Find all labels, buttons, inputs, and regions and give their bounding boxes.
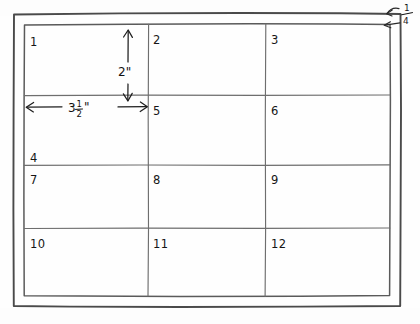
horizontal-dimension-unit: " — [84, 100, 90, 114]
vertical-grid-line-1 — [148, 24, 149, 296]
cell-label-8: 8 — [153, 173, 161, 187]
sketch-canvas: 1 4 2" 3 1 2 " 1 2 3 5 6 7 8 9 10 11 12 — [0, 0, 420, 324]
horizontal-grid-line-1 — [24, 95, 390, 96]
cell-label-2: 2 — [153, 33, 161, 47]
horizontal-dimension-numerator: 1 — [77, 99, 82, 109]
hand-drawn-grid-diagram: 1 4 2" 3 1 2 " 1 2 3 5 6 7 8 9 10 11 12 — [0, 0, 420, 324]
paper-background — [0, 0, 420, 324]
horizontal-grid-line-2 — [24, 165, 390, 166]
cell-label-6: 6 — [271, 104, 279, 118]
horizontal-grid-line-3 — [24, 228, 389, 229]
cell-label-10: 10 — [30, 237, 45, 251]
vertical-grid-line-2 — [265, 24, 266, 296]
cell-label-12: 12 — [271, 237, 286, 251]
cell-label-5: 5 — [153, 104, 161, 118]
corner-fraction-numerator: 1 — [404, 3, 410, 13]
cell-label-9: 9 — [271, 173, 279, 187]
corner-fraction-denominator: 4 — [403, 16, 409, 26]
horizontal-dimension-denominator: 2 — [77, 109, 82, 119]
horizontal-dimension-whole: 3 — [68, 101, 76, 115]
cell-label-4: 4 — [30, 151, 38, 165]
cell-label-1: 1 — [30, 35, 38, 49]
vertical-dimension-label: 2" — [118, 65, 131, 79]
cell-label-3: 3 — [271, 33, 279, 47]
cell-label-11: 11 — [153, 237, 168, 251]
cell-label-7: 7 — [30, 173, 38, 187]
